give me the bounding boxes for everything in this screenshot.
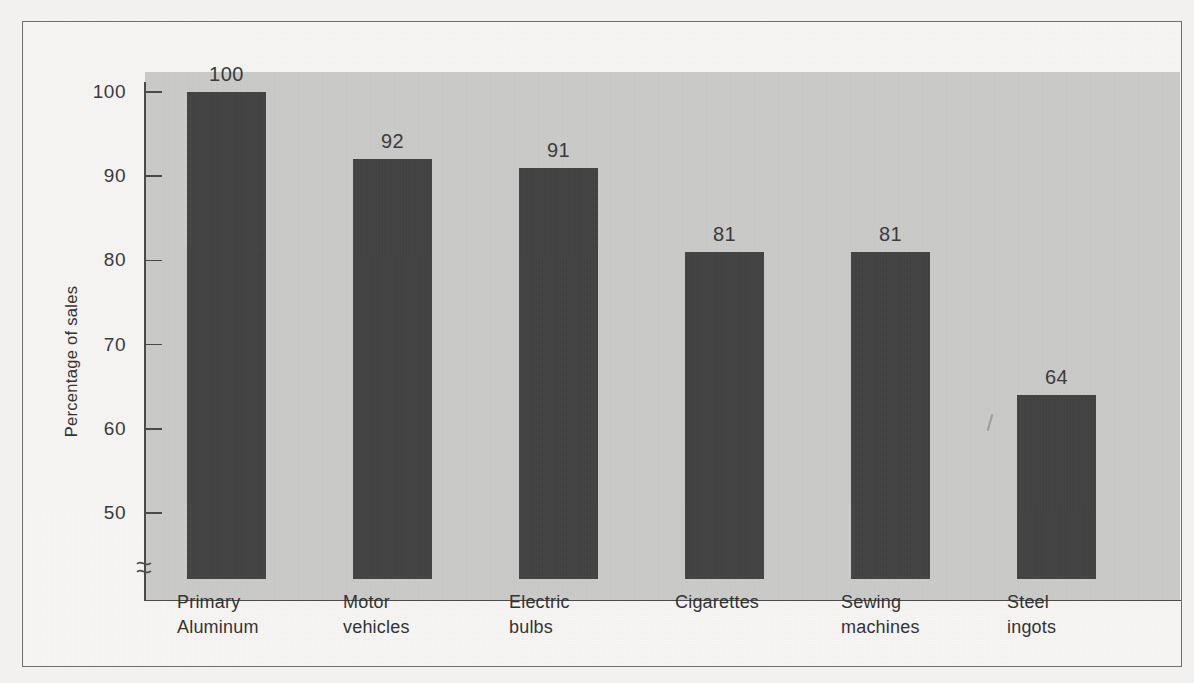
x-category-label: Steel ingots — [1007, 590, 1176, 640]
y-tick-label: 60 — [23, 418, 145, 440]
bar-texture — [353, 159, 432, 579]
bar-texture — [187, 92, 266, 579]
bar-value-label: 100 — [157, 63, 296, 86]
figure-frame: 5060708090100 Percentage of sales 100Pri… — [22, 21, 1182, 667]
bar-value-label: 92 — [323, 130, 462, 153]
bar-texture — [1017, 395, 1096, 579]
y-tick-label: 90 — [23, 165, 145, 187]
x-category-label: Cigarettes — [675, 590, 844, 615]
y-tick-mark — [145, 91, 162, 93]
bar — [851, 252, 930, 579]
bar-texture — [685, 252, 764, 579]
y-tick-mark — [145, 260, 162, 262]
bar — [187, 92, 266, 579]
x-category-label: Sewing machines — [841, 590, 1010, 640]
x-category-label: Electric bulbs — [509, 590, 678, 640]
bar — [519, 168, 598, 579]
bar-value-label: 64 — [987, 366, 1126, 389]
axis-break-icon — [135, 555, 157, 581]
y-tick-label: 70 — [23, 334, 145, 356]
x-category-label: Motor vehicles — [343, 590, 512, 640]
x-category-label: Primary Aluminum — [177, 590, 346, 640]
bar-value-label: 91 — [489, 139, 628, 162]
y-axis-title: Percentage of sales — [62, 252, 81, 472]
y-tick-mark — [145, 428, 162, 430]
y-tick-label: 100 — [23, 81, 145, 103]
y-tick-mark — [145, 344, 162, 346]
bar-texture — [519, 168, 598, 579]
bar — [685, 252, 764, 579]
bar-value-label: 81 — [655, 223, 794, 246]
bar-texture — [851, 252, 930, 579]
bar — [1017, 395, 1096, 579]
y-tick-label: 50 — [23, 502, 145, 524]
figure-page: 5060708090100 Percentage of sales 100Pri… — [0, 0, 1194, 683]
y-tick-label: 80 — [23, 249, 145, 271]
y-tick-mark — [145, 175, 162, 177]
bar-value-label: 81 — [821, 223, 960, 246]
bar — [353, 159, 432, 579]
y-tick-mark — [145, 512, 162, 514]
